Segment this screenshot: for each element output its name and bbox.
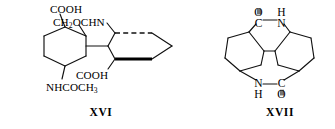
cyclohexane-ring-xvii-left — [225, 32, 264, 71]
lactam-ring-bottom — [240, 71, 299, 95]
label-carbonyl-oxygen-bottom: O — [276, 89, 287, 101]
label-carbonyl-carbon-top: C — [253, 18, 264, 30]
caption-xvii: XVII — [262, 106, 298, 118]
cyclohexane-ring-xvii-right — [275, 32, 314, 71]
label-amide-hydrogen-bottom: H — [253, 89, 264, 101]
label-amide-nitrogen-top: N — [276, 18, 287, 30]
figure-canvas: COOH CH2OCHN COOH NHCOCH3 XVI — [0, 0, 335, 129]
